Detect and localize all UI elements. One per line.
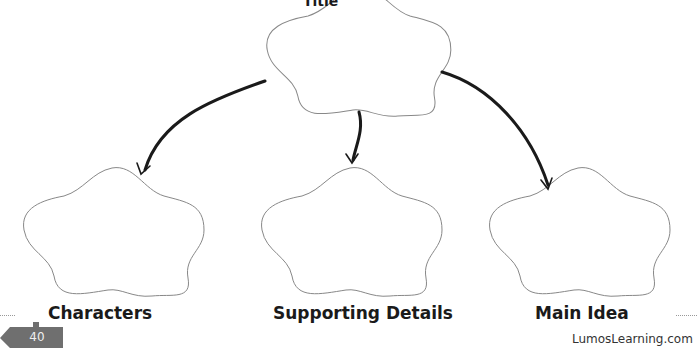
arrow-to-characters — [137, 81, 265, 174]
supporting-details-label: Supporting Details — [273, 303, 453, 323]
main-idea-box[interactable] — [490, 168, 670, 297]
left-divider — [0, 315, 15, 316]
page-number: 40 — [22, 330, 52, 344]
characters-label: Characters — [48, 303, 152, 323]
title-box[interactable] — [267, 0, 451, 116]
graphic-organizer — [0, 0, 697, 348]
arrow-to-main-idea — [442, 72, 552, 189]
title-label: Title — [303, 0, 338, 9]
characters-box[interactable] — [24, 168, 204, 297]
site-name: LumosLearning.com — [572, 332, 693, 346]
supporting-details-box[interactable] — [262, 168, 442, 297]
main-idea-label: Main Idea — [535, 303, 629, 323]
arrow-to-supporting-details — [346, 112, 361, 163]
right-divider — [676, 315, 697, 316]
